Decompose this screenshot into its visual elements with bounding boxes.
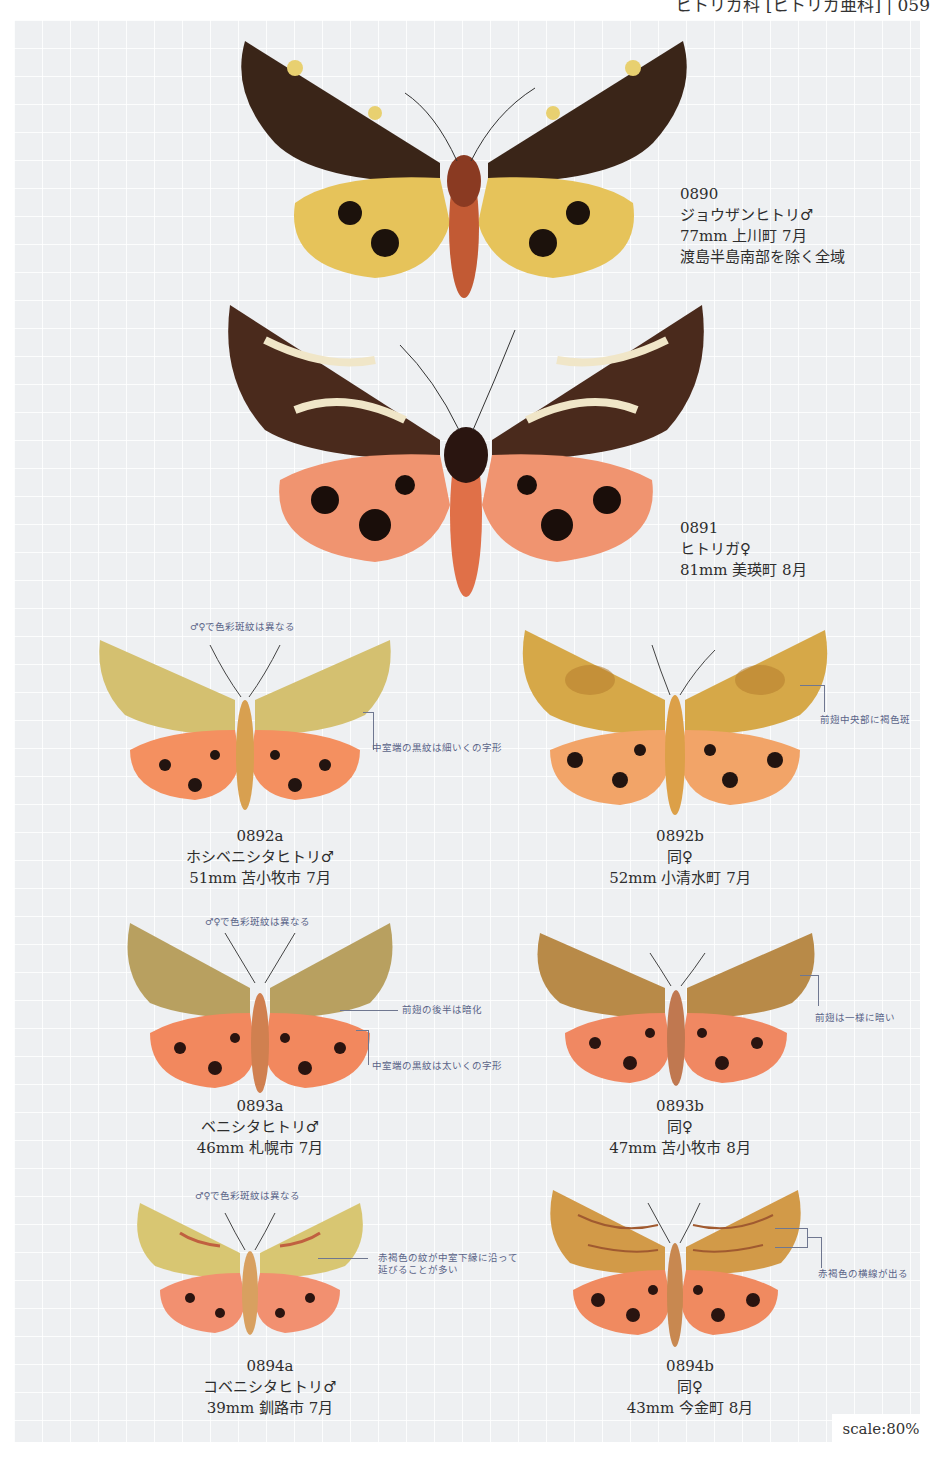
annotation-leader [356,1030,369,1065]
scale-label: scale:80% [832,1414,930,1444]
specimen-details: 52mm 小清水町 7月 [580,868,780,889]
moth-image-0893b [535,928,817,1088]
annotation-leader [775,1228,808,1248]
annotation-0894b: 赤褐色の横線が出る [818,1268,908,1280]
specimen-name: ホシベニシタヒトリ♂ [160,847,360,868]
moth-image-0892a [95,635,395,815]
specimen-range: 渡島半島南部を除く全域 [680,247,845,268]
specimen-name: コベニシタヒトリ♂ [170,1377,370,1398]
specimen-id: 0890 [680,184,845,205]
specimen-details: 39mm 釧路市 7月 [170,1398,370,1419]
specimen-details: 47mm 苫小牧市 8月 [580,1138,780,1159]
annotation-leader [807,1237,822,1268]
specimen-label-0894b: 0894b 同♀ 43mm 今金町 8月 [590,1356,790,1419]
specimen-name: ベニシタヒトリ♂ [160,1117,360,1138]
annotation-leader [340,1010,398,1012]
specimen-name: 同♀ [580,1117,780,1138]
specimen-details: 43mm 今金町 8月 [590,1398,790,1419]
annotation-0894a: 赤褐色の紋が中室下縁に沿って 延びることが多い [378,1252,518,1276]
annotation-0892a: 中室端の黒紋は細いくの字形 [372,742,502,754]
annotation-leader [800,685,825,712]
specimen-id: 0894a [170,1356,370,1377]
specimen-id: 0891 [680,518,807,539]
annotation-leader [800,975,819,1006]
specimen-name: 同♀ [580,847,780,868]
specimen-label-0894a: 0894a コベニシタヒトリ♂ 39mm 釧路市 7月 [170,1356,370,1419]
specimen-id: 0893a [160,1096,360,1117]
annotation-0893a-forewing: 前翅の後半は暗化 [402,1004,482,1016]
annotation-0894a-line2: 延びることが多い [378,1264,518,1276]
specimen-label-0890: 0890 ジョウザンヒトリ♂ 77mm 上川町 7月 渡島半島南部を除く全域 [680,184,845,268]
annotation-0893b: 前翅は一様に暗い [815,1012,895,1024]
annotation-leader [318,1258,368,1260]
specimen-name: ジョウザンヒトリ♂ [680,205,845,226]
moth-image-0891 [225,300,707,600]
specimen-id: 0894b [590,1356,790,1377]
specimen-details: 81mm 美瑛町 8月 [680,560,807,581]
specimen-id: 0892a [160,826,360,847]
specimen-id: 0893b [580,1096,780,1117]
moth-image-0894b [548,1185,803,1350]
specimen-details: 77mm 上川町 7月 [680,226,845,247]
specimen-label-0891: 0891 ヒトリガ♀ 81mm 美瑛町 8月 [680,518,807,581]
specimen-details: 46mm 札幌市 7月 [160,1138,360,1159]
moth-image-0892b [520,625,830,820]
specimen-label-0892b: 0892b 同♀ 52mm 小清水町 7月 [580,826,780,889]
specimen-label-0892a: 0892a ホシベニシタヒトリ♂ 51mm 苫小牧市 7月 [160,826,360,889]
annotation-0894a-line1: 赤褐色の紋が中室下縁に沿って [378,1252,518,1264]
moth-image-0894a [135,1198,365,1343]
specimen-label-0893a: 0893a ベニシタヒトリ♂ 46mm 札幌市 7月 [160,1096,360,1159]
page-header-fragment: ヒトリガ科 [ヒトリガ亜科] | 059 [600,0,930,7]
specimen-label-0893b: 0893b 同♀ 47mm 苫小牧市 8月 [580,1096,780,1159]
specimen-details: 51mm 苫小牧市 7月 [160,868,360,889]
annotation-0893a-discal: 中室端の黒紋は太いくの字形 [372,1060,502,1072]
annotation-0892b: 前翅中央部に褐色斑 [820,714,910,726]
specimen-name: ヒトリガ♀ [680,539,807,560]
moth-image-0890 [235,33,693,303]
specimen-id: 0892b [580,826,780,847]
specimen-name: 同♀ [590,1377,790,1398]
moth-image-0893a [125,918,395,1098]
annotation-sex-difference-0892: ♂♀で色彩斑紋は異なる [190,621,295,633]
